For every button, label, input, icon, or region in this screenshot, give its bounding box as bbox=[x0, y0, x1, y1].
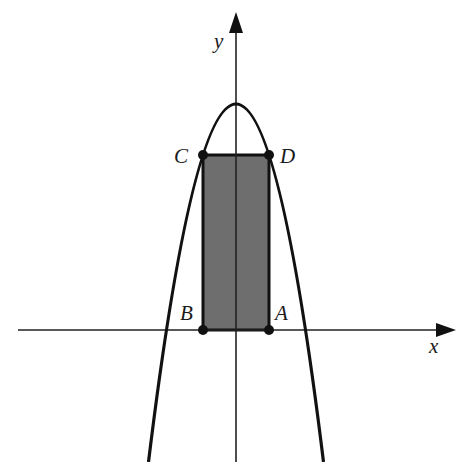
point-b bbox=[198, 325, 208, 335]
point-d bbox=[264, 150, 274, 160]
x-axis-arrow-icon bbox=[436, 323, 456, 337]
point-c bbox=[198, 150, 208, 160]
label-b: B bbox=[180, 301, 193, 325]
point-a bbox=[264, 325, 274, 335]
y-axis-arrow-icon bbox=[229, 12, 243, 33]
label-c: C bbox=[174, 144, 189, 168]
y-axis-label: y bbox=[212, 29, 224, 53]
label-a: A bbox=[273, 301, 288, 325]
x-axis-label: x bbox=[428, 334, 439, 358]
diagram-canvas: y x C D B A bbox=[0, 0, 468, 462]
label-d: D bbox=[279, 144, 295, 168]
